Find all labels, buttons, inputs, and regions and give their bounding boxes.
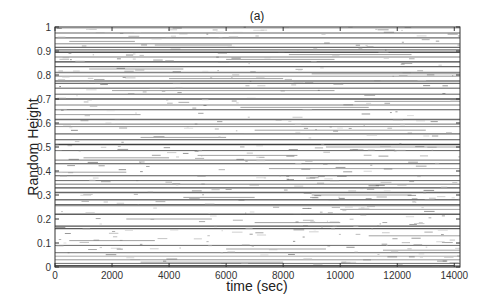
y-tick-label: 1 [45,22,51,33]
chart: (a) 02000400060008000100001200014000 00.… [0,0,481,305]
chart-title: (a) [250,9,265,23]
trace-lines [55,27,460,266]
x-tick-label: 10000 [326,270,354,281]
x-axis-label: time (sec) [226,278,287,294]
y-tick-label: 0 [45,262,51,273]
x-tick-label: 12000 [383,270,411,281]
x-tick-label: 4000 [158,270,181,281]
x-tick-label: 0 [52,270,58,281]
y-tick-label: 0.2 [37,214,51,225]
y-axis-label: Random Height [25,98,41,195]
y-tick-label: 0.1 [37,238,51,249]
x-tick-label: 14000 [440,270,468,281]
y-tick-label: 0.9 [37,46,51,57]
x-tick-label: 2000 [101,270,124,281]
y-tick-label: 0.8 [37,70,51,81]
